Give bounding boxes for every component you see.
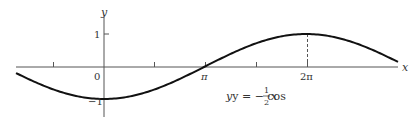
svg-text:1: 1: [264, 86, 269, 95]
x-tick-label-2pi: 2π: [300, 71, 313, 82]
y-tick-label-neg1: −1: [88, 96, 103, 107]
equation-label: yy = − cos 1 2 x: [225, 86, 286, 107]
svg-text:x: x: [271, 90, 278, 103]
x-tick-label-pi: π: [200, 71, 208, 82]
x-ticks: [54, 62, 308, 67]
y-axis-label: y: [100, 6, 108, 19]
x-tick-label-0: 0: [94, 71, 100, 82]
svg-text:2: 2: [264, 98, 269, 107]
x-axis-label: x: [402, 61, 409, 74]
y-tick-label-1: 1: [94, 29, 100, 40]
cosine-chart: x y 0 π 2π 1 −1 yy = − cos 1 2 x: [0, 0, 416, 122]
